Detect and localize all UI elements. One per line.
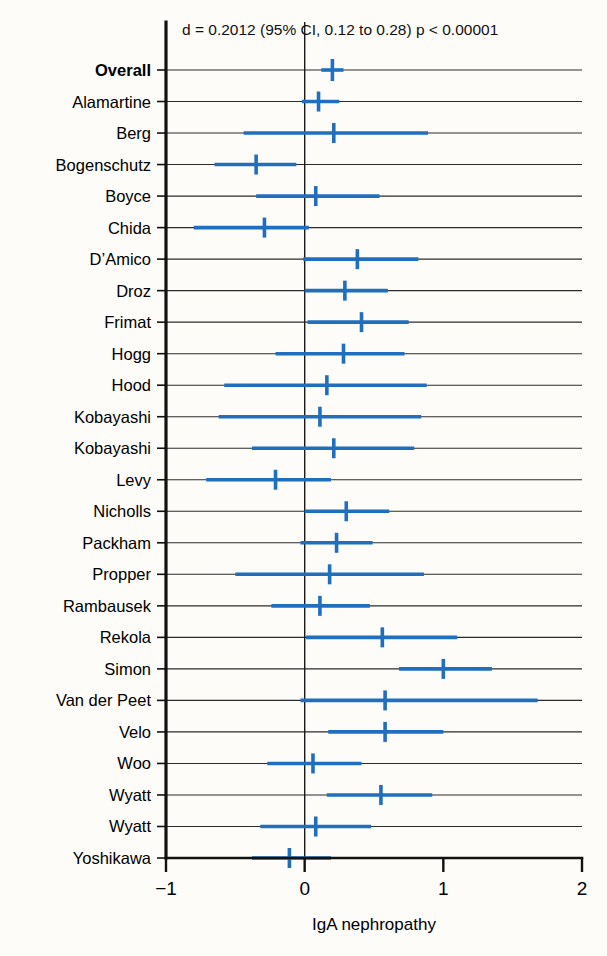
study-row-label: Rambausek (63, 597, 152, 615)
study-row-label: Simon (104, 660, 151, 678)
study-row-label: Van der Peet (56, 691, 152, 709)
study-row-label: Berg (116, 124, 151, 142)
study-row-label: Frimat (104, 313, 151, 331)
study-row-label: Rekola (100, 628, 152, 646)
plot-title: d = 0.2012 (95% CI, 0.12 to 0.28) p < 0.… (182, 21, 498, 38)
study-row-label: Alamartine (72, 93, 151, 111)
study-row-label: Bogenschutz (56, 156, 151, 174)
study-row-label: Propper (92, 565, 151, 583)
study-row-label: Droz (116, 282, 151, 300)
study-row-label: Nicholls (93, 502, 151, 520)
x-axis-title: IgA nephropathy (312, 915, 436, 934)
x-axis-tick-label: −1 (155, 878, 177, 899)
study-row-label: Levy (116, 471, 152, 489)
study-row-label: Wyatt (109, 786, 151, 804)
study-row-label: Velo (119, 723, 151, 741)
forest-plot: d = 0.2012 (95% CI, 0.12 to 0.28) p < 0.… (0, 0, 607, 956)
study-row-label: Hogg (112, 345, 151, 363)
study-row-label: Packham (82, 534, 151, 552)
study-row-label: Kobayashi (74, 439, 151, 457)
x-axis-tick-label: 0 (299, 878, 310, 899)
study-row-label: Wyatt (109, 817, 151, 835)
summary-row-label: Overall (95, 61, 151, 79)
x-axis-tick-label: 2 (577, 878, 588, 899)
study-row-label: Woo (117, 754, 151, 772)
study-row-label: Kobayashi (74, 408, 151, 426)
study-row-label: Hood (112, 376, 151, 394)
study-row-label: D’Amico (90, 250, 151, 268)
study-row-label: Yoshikawa (73, 849, 152, 867)
study-row-label: Chida (108, 219, 152, 237)
x-axis-tick-label: 1 (438, 878, 449, 899)
study-row-label: Boyce (105, 187, 151, 205)
